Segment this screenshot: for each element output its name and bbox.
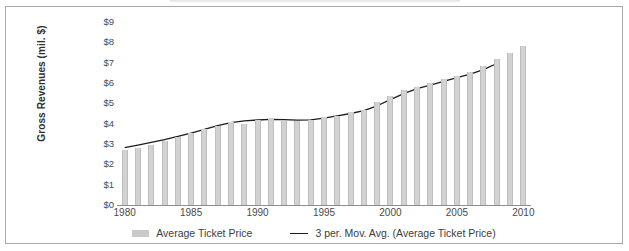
bar-1997: [348, 112, 354, 205]
bar-1992: [281, 121, 287, 205]
bar-1982: [148, 145, 154, 205]
bar-2002: [414, 87, 420, 205]
bar-1988: [228, 122, 234, 205]
bar-swatch-icon: [132, 230, 149, 237]
bar-1985: [188, 133, 194, 205]
chart-legend: Average Ticket Price 3 per. Mov. Avg. (A…: [5, 224, 623, 242]
bar-2005: [454, 76, 460, 205]
bar-1998: [361, 110, 367, 205]
bar-2001: [401, 90, 407, 205]
bar-1980: [122, 150, 128, 205]
x-tick-label: 2010: [500, 208, 546, 218]
chart-figure: Gross Revenues (mil. $) $9$8$7$6$5$4$3$2…: [0, 0, 629, 251]
bar-2009: [507, 53, 513, 205]
bar-1994: [308, 120, 314, 205]
bar-2007: [480, 66, 486, 205]
y-tick-label: $6: [88, 78, 114, 88]
legend-item-average-ticket-price: Average Ticket Price: [132, 227, 252, 239]
bar-1989: [241, 124, 247, 205]
legend-label: 3 per. Mov. Avg. (Average Ticket Price): [315, 227, 495, 239]
y-tick-label: $3: [88, 139, 114, 149]
bar-1981: [135, 148, 141, 205]
bar-2008: [494, 59, 500, 205]
y-tick-label: $2: [88, 159, 114, 169]
bar-2010: [520, 46, 526, 205]
bar-1983: [162, 141, 168, 205]
y-tick-label: $5: [88, 98, 114, 108]
x-tick-label: 1980: [102, 208, 148, 218]
line-swatch-icon: [290, 233, 308, 234]
bar-2000: [387, 96, 393, 205]
y-tick-label: $1: [88, 180, 114, 190]
y-tick-label: $9: [88, 17, 114, 27]
bar-2003: [427, 83, 433, 205]
bar-1990: [255, 120, 261, 205]
x-tick-label: 2000: [367, 208, 413, 218]
bar-1995: [321, 117, 327, 205]
x-tick-label: 2005: [434, 208, 480, 218]
x-axis-line: [117, 205, 531, 206]
bar-1991: [268, 119, 274, 205]
plot-area: [118, 22, 530, 205]
bar-1986: [201, 129, 207, 205]
x-tick-label: 1995: [301, 208, 347, 218]
bar-1987: [215, 126, 221, 205]
y-tick-label: $8: [88, 37, 114, 47]
bar-1996: [334, 116, 340, 205]
bar-2004: [441, 79, 447, 205]
bar-1999: [374, 102, 380, 205]
bar-1984: [175, 137, 181, 205]
legend-item-moving-average: 3 per. Mov. Avg. (Average Ticket Price): [290, 227, 495, 239]
y-tick-label: $4: [88, 119, 114, 129]
bar-2006: [467, 72, 473, 205]
x-tick-label: 1985: [168, 208, 214, 218]
bar-1993: [294, 121, 300, 205]
y-tick-label: $7: [88, 58, 114, 68]
legend-label: Average Ticket Price: [156, 227, 252, 239]
x-tick-label: 1990: [235, 208, 281, 218]
